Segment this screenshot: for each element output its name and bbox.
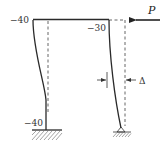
load-arrow: P (136, 4, 160, 20)
displacement-dimension: Δ (97, 72, 146, 88)
fixed-support (32, 130, 62, 140)
deformed-frame (33, 20, 121, 131)
undeformed-frame (48, 20, 125, 126)
moment-left-base: −40 (24, 118, 43, 128)
moment-left-top: −40 (10, 15, 29, 25)
load-label: P (147, 4, 156, 17)
right-column-deflected (109, 20, 121, 128)
displacement-label: Δ (139, 76, 146, 86)
moment-right-top: −30 (87, 23, 106, 33)
portal-frame-diagram: P Δ −40 −30 −40 (0, 0, 167, 151)
left-column-deflected (33, 20, 46, 130)
pin-support (113, 127, 131, 137)
